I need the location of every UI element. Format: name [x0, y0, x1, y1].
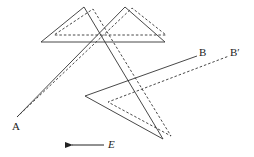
solid-trajectory	[17, 7, 197, 139]
trajectory-diagram	[0, 0, 254, 157]
label-b-prime: B′	[230, 47, 240, 58]
label-e-field: E	[108, 139, 115, 150]
label-b: B	[199, 47, 206, 58]
diagram-canvas: A B B′ E	[0, 0, 254, 157]
label-a: A	[12, 121, 20, 132]
